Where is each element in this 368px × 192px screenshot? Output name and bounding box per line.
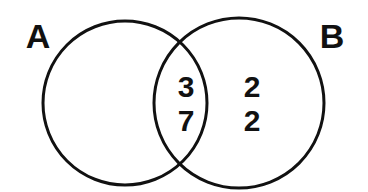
venn-diagram: A B 3 7 2 2 xyxy=(0,0,368,192)
set-label-a: A xyxy=(26,17,51,55)
b-only-value-bottom: 2 xyxy=(244,104,261,137)
set-label-b: B xyxy=(320,17,345,55)
intersection-value-top: 3 xyxy=(178,70,195,103)
venn-diagram-canvas: A B 3 7 2 2 xyxy=(0,0,368,192)
intersection-value-bottom: 7 xyxy=(178,104,195,137)
b-only-value-top: 2 xyxy=(244,70,261,103)
